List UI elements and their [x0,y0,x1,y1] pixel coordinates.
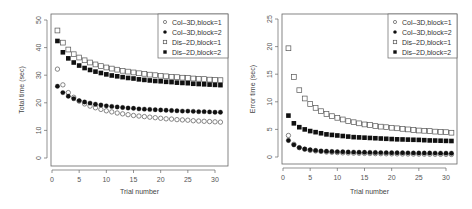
x-tick-label: 30 [211,176,219,183]
legend-label: Dis–2D,block=2 [402,49,451,56]
x-tick-label: 20 [388,174,396,181]
y-tick-label: 50 [35,16,42,24]
legend-item: Dis–2D,block=2 [393,49,451,56]
y-tick-label: 0 [35,156,42,160]
y-tick-label: 10 [266,98,273,106]
legend-item: Dis–2D,block=1 [163,39,221,46]
series-open-square [286,46,454,135]
x-tick-label: 5 [308,174,312,181]
x-tick-label: 10 [333,174,341,181]
y-tick-label: 15 [266,70,273,78]
legend-item: Col–3D,block=2 [163,29,221,36]
legend-label: Dis–2D,block=1 [402,39,451,46]
plot-panel-2: 0510152025300510152025Trial numberError … [249,14,457,195]
chart-canvas: 05101520253001020304050Trial numberTotal… [0,0,472,209]
legend-item: Col–3D,block=1 [393,19,451,26]
legend: Col–3D,block=1Col–3D,block=2Dis–2D,block… [388,14,457,58]
legend-label: Dis–2D,block=1 [172,39,221,46]
y-tick-label: 20 [266,43,273,51]
x-tick-label: 30 [442,174,450,181]
x-tick-label: 25 [415,174,423,181]
x-tick-label: 0 [281,174,285,181]
x-tick-label: 25 [184,176,192,183]
legend-label: Col–3D,block=1 [172,19,222,26]
series-filled-circle [55,84,222,114]
x-tick-label: 5 [77,176,81,183]
y-tick-label: 10 [35,126,42,134]
x-tick-label: 10 [102,176,110,183]
legend-label: Col–3D,block=2 [402,29,452,36]
y-tick-label: 30 [35,71,42,79]
figure: 05101520253001020304050Trial numberTotal… [0,0,472,209]
series-filled-square [286,113,454,143]
x-axis-label: Trial number [120,188,160,195]
y-axis: 0510152025 [266,15,278,159]
legend-label: Dis–2D,block=2 [172,49,221,56]
x-tick-label: 20 [157,176,165,183]
x-tick-label: 15 [361,174,369,181]
y-tick-label: 20 [35,99,42,107]
y-tick-label: 0 [266,155,273,159]
x-tick-label: 15 [130,176,138,183]
x-tick-label: 0 [50,176,54,183]
x-axis: 051015202530 [50,170,219,183]
legend-item: Col–3D,block=1 [163,19,221,26]
y-tick-label: 5 [266,127,273,131]
y-tick-label: 40 [35,44,42,52]
plot-panel-1: 05101520253001020304050Trial numberTotal… [18,14,228,195]
y-tick-label: 25 [266,15,273,23]
legend-item: Col–3D,block=2 [393,29,451,36]
x-axis-label: Trial number [350,188,390,195]
legend: Col–3D,block=1Col–3D,block=2Dis–2D,block… [158,14,228,58]
legend-label: Col–3D,block=1 [402,19,452,26]
y-axis: 01020304050 [35,16,47,160]
x-axis: 051015202530 [281,168,450,181]
legend-item: Dis–2D,block=1 [393,39,451,46]
y-axis-label: Total time (sec) [18,66,26,113]
y-axis-label: Error time (sec) [249,65,257,113]
legend-item: Dis–2D,block=2 [163,49,221,56]
legend-label: Col–3D,block=2 [172,29,222,36]
